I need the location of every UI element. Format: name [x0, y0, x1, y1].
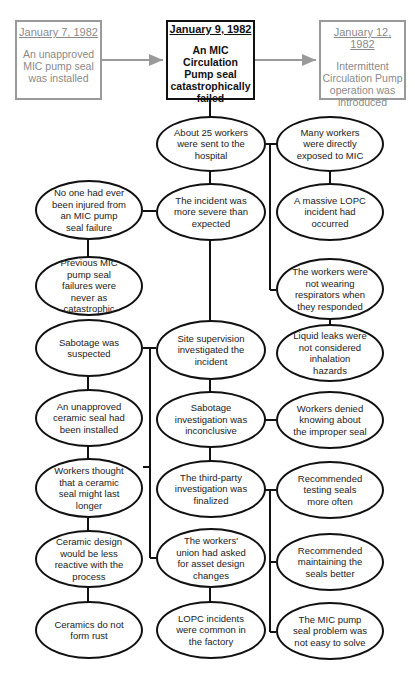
node-previous-failures: Previous MIC pump seal failures were nev…	[35, 256, 143, 316]
node-no-rust: Ceramics do not form rust	[35, 601, 143, 659]
node-liquid-leaks: Liquid leaks were not considered inhalat…	[276, 324, 384, 382]
timeline-box-jan-7: January 7, 1982 An unapproved MIC pump s…	[15, 20, 102, 100]
node-hospital: About 25 workers were sent to the hospit…	[156, 116, 266, 172]
timeline-date: January 7, 1982	[17, 26, 100, 38]
timeline-box-jan-9: January 9, 1982 An MIC Circulation Pump …	[166, 20, 255, 100]
node-more-severe: The incident was more severe than expect…	[156, 183, 266, 241]
node-union-asked: The workers' union had asked for asset d…	[156, 528, 266, 588]
node-ceramic-longer: Workers thought that a ceramic seal migh…	[35, 458, 143, 518]
node-third-party: The third-party investigation was finali…	[156, 460, 266, 518]
timeline-text: Intermittent Circulation Pump operation …	[323, 60, 403, 108]
timeline-date: January 12, 1982	[321, 26, 404, 50]
node-workers-denied: Workers denied knowing about the imprope…	[276, 391, 384, 449]
timeline-text: An MIC Circulation Pump seal catastrophi…	[171, 44, 251, 104]
node-ceramic-installed: An unapproved ceramic seal had been inst…	[35, 389, 143, 447]
timeline-box-jan-12: January 12, 1982 Intermittent Circulatio…	[319, 20, 406, 100]
node-maintaining-seals: Recommended maintaining the seals better	[276, 533, 384, 591]
node-sabotage-inconclusive: Sabotage investigation was inconclusive	[156, 391, 266, 448]
node-not-easy: The MIC pump seal problem was not easy t…	[276, 602, 384, 660]
node-exposed: Many workers were directly exposed to MI…	[276, 116, 384, 172]
timeline-text: An unapproved MIC pump seal was installe…	[23, 48, 94, 84]
node-ceramic-reactive: Ceramic design would be less reactive wi…	[35, 530, 143, 588]
node-no-respirators: The workers were not wearing respirators…	[276, 258, 384, 320]
node-sabotage-suspected: Sabotage was suspected	[35, 319, 143, 377]
node-testing-seals: Recommended testing seals more often	[276, 461, 384, 519]
node-no-one-injured: No one had ever been injured from an MIC…	[35, 180, 143, 240]
node-lopc-common: LOPC incidents were common in the factor…	[156, 601, 266, 659]
node-massive-lopc: A massive LOPC incident had occurred	[276, 183, 384, 241]
node-site-supervision: Site supervision investigated the incide…	[156, 320, 266, 380]
timeline-date: January 9, 1982	[168, 23, 253, 35]
